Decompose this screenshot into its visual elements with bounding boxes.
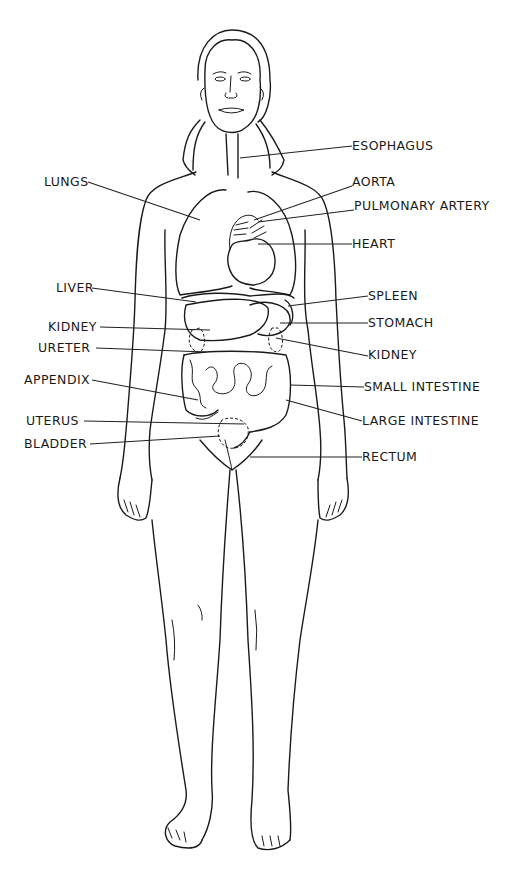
label-liver: LIVER (56, 282, 94, 295)
head (198, 30, 271, 133)
label-large-intestine: LARGE INTESTINE (362, 415, 479, 428)
intestines-drawing (182, 351, 291, 448)
label-kidney-right: KIDNEY (368, 349, 417, 362)
torso-and-arms (118, 172, 348, 520)
legs (152, 470, 318, 850)
label-spleen: SPLEEN (368, 290, 418, 303)
label-pulmonary-artery: PULMONARY ARTERY (354, 200, 489, 213)
label-esophagus: ESOPHAGUS (352, 140, 433, 153)
label-ureter: URETER (38, 342, 90, 355)
anatomy-diagram: LUNGS LIVER KIDNEY URETER APPENDIX UTERU… (0, 0, 511, 882)
label-bladder: BLADDER (24, 438, 87, 451)
leader-lines (84, 146, 368, 457)
label-small-intestine: SMALL INTESTINE (364, 381, 480, 394)
label-lungs: LUNGS (44, 176, 88, 189)
label-stomach: STOMACH (368, 317, 433, 330)
heart-drawing (228, 215, 275, 285)
label-uterus: UTERUS (26, 415, 79, 428)
label-kidney-left: KIDNEY (48, 321, 97, 334)
label-heart: HEART (352, 238, 395, 251)
upper-abdomen-drawing (182, 293, 294, 352)
label-appendix: APPENDIX (24, 374, 90, 387)
label-rectum: RECTUM (362, 451, 417, 464)
label-aorta: AORTA (352, 176, 395, 189)
